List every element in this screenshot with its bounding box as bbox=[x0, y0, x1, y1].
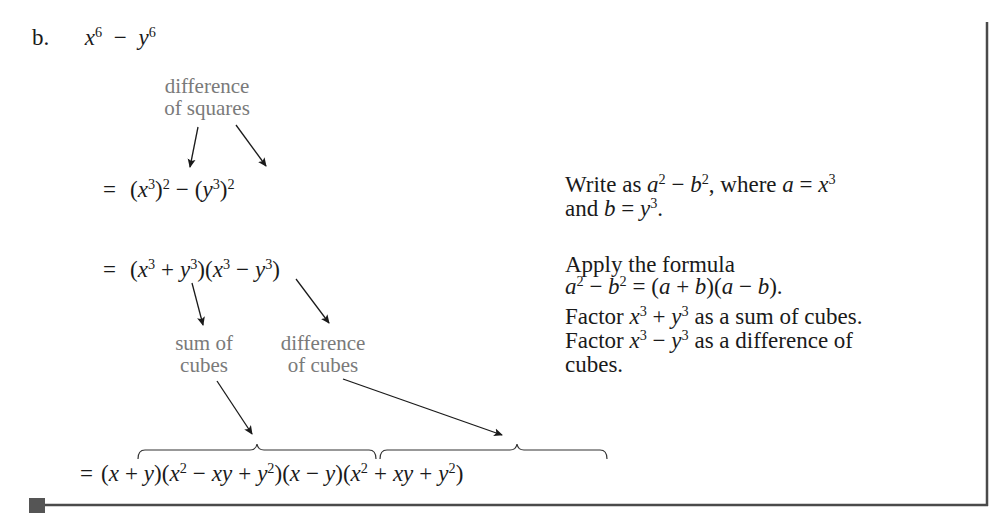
overbrace-icons bbox=[138, 444, 607, 459]
box-rules bbox=[29, 22, 988, 513]
arrow-icon bbox=[343, 379, 502, 435]
arrow-icon bbox=[217, 381, 252, 434]
end-of-example-square-icon bbox=[29, 498, 45, 513]
arrow-icon bbox=[192, 283, 203, 325]
arrow-icon bbox=[190, 127, 198, 167]
diagram-overlay bbox=[0, 0, 1002, 521]
overbrace-icon bbox=[138, 444, 376, 459]
overbrace-icon bbox=[380, 444, 607, 459]
arrow-icon bbox=[236, 125, 266, 166]
arrow-icon bbox=[296, 279, 329, 323]
